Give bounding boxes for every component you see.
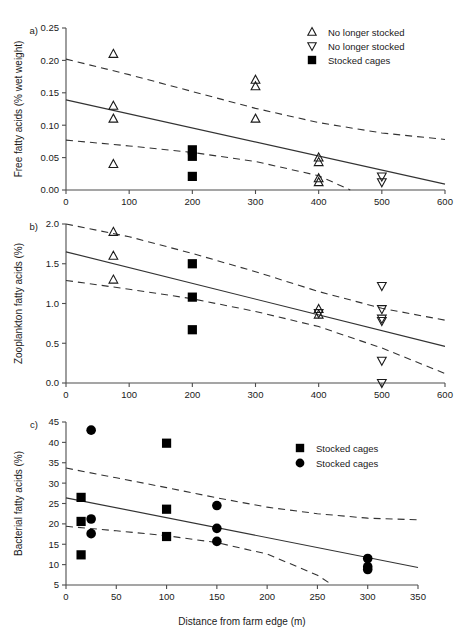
series-square	[76, 439, 171, 560]
data-point-square	[162, 439, 171, 448]
data-point-square	[76, 493, 85, 502]
data-point-triangle-up	[109, 275, 118, 283]
y-tick-label: 0.0	[46, 377, 59, 388]
data-point-circle	[86, 514, 96, 524]
series-triangle-down	[377, 173, 386, 187]
y-tick-label: 2.0	[46, 218, 59, 229]
x-axis-title: Distance from farm edge (m)	[178, 616, 305, 627]
x-tick-label: 200	[184, 389, 200, 400]
data-point-square	[188, 325, 197, 334]
x-tick-label: 100	[121, 196, 137, 205]
data-point-triangle-down	[377, 357, 386, 365]
x-tick-label: 400	[311, 196, 327, 205]
y-tick-label: 0.20	[41, 55, 60, 66]
data-point-circle	[212, 501, 222, 511]
confidence-interval-lower	[66, 140, 350, 190]
legend-label: Stocked cages	[316, 458, 379, 469]
confidence-interval-lower	[66, 280, 445, 373]
y-tick-label: 15	[48, 539, 59, 550]
x-tick-label: 300	[360, 591, 376, 602]
x-tick-label: 300	[248, 196, 264, 205]
chart-panel-c: c)51015202530354045050100150200250300350…	[0, 400, 470, 640]
y-axis-title: Free fatty acids (% wet weight)	[13, 41, 24, 178]
x-tick-label: 250	[309, 591, 325, 602]
data-point-triangle-up	[109, 114, 118, 122]
data-point-circle	[212, 537, 222, 547]
x-tick-label: 200	[184, 196, 200, 205]
data-point-square	[188, 259, 197, 268]
x-tick-label: 500	[374, 389, 390, 400]
y-tick-label: 5	[54, 579, 59, 590]
data-point-triangle-down	[377, 306, 386, 314]
x-tick-label: 500	[374, 196, 390, 205]
legend: No longer stockedNo longer stockedStocke…	[308, 27, 405, 66]
x-tick-label: 600	[437, 389, 453, 400]
series-triangle-down	[314, 283, 386, 388]
regression-line	[66, 252, 445, 347]
x-tick-label: 100	[121, 389, 137, 400]
y-tick-label: 25	[48, 498, 59, 509]
data-point-triangle-down	[377, 283, 386, 291]
legend-triangle-down-icon	[308, 43, 316, 51]
x-tick-label: 100	[159, 591, 175, 602]
chart-panel-a: a)0.000.050.100.150.200.2501002003004005…	[0, 0, 470, 205]
y-tick-label: 30	[48, 478, 59, 489]
x-tick-label: 300	[248, 389, 264, 400]
y-tick-label: 0.05	[41, 152, 60, 163]
confidence-interval-upper	[66, 468, 418, 520]
data-point-triangle-up	[251, 114, 260, 122]
x-tick-label: 400	[311, 389, 327, 400]
legend-square-icon	[296, 444, 304, 452]
data-point-circle	[363, 565, 373, 575]
data-point-square	[162, 532, 171, 541]
y-axis-title: Zooplankton fatty acids (%)	[13, 243, 24, 364]
plot-area-a: a)0.000.050.100.150.200.2501002003004005…	[0, 0, 470, 205]
confidence-interval-upper	[66, 224, 445, 320]
series-square	[188, 145, 197, 181]
legend-circle-icon	[296, 459, 305, 468]
regression-line	[66, 100, 445, 184]
series-square	[188, 259, 197, 334]
data-point-square	[188, 152, 197, 161]
x-tick-label: 0	[63, 389, 68, 400]
y-tick-label: 1.5	[46, 258, 59, 269]
data-point-square	[188, 293, 197, 302]
y-tick-label: 0.15	[41, 87, 60, 98]
figure-panel-group: a)0.000.050.100.150.200.2501002003004005…	[0, 0, 470, 640]
confidence-interval-upper	[66, 59, 445, 139]
data-point-square	[162, 505, 171, 514]
data-point-triangle-down	[377, 173, 386, 181]
legend-label: No longer stocked	[328, 27, 405, 38]
y-tick-label: 0.5	[46, 338, 59, 349]
data-point-square	[188, 172, 197, 181]
y-tick-label: 40	[48, 437, 59, 448]
data-point-triangle-up	[109, 49, 118, 57]
series-triangle-up	[109, 227, 323, 318]
data-point-square	[76, 517, 85, 526]
x-tick-label: 150	[209, 591, 225, 602]
plot-area-b: b)0.00.51.01.52.00100200300400500600Zoop…	[0, 205, 470, 400]
y-tick-label: 20	[48, 518, 59, 529]
legend-label: Stocked cages	[328, 55, 391, 66]
data-point-square	[76, 550, 85, 559]
data-point-triangle-up	[109, 159, 118, 167]
y-tick-label: 0.25	[41, 22, 60, 33]
legend-triangle-up-icon	[308, 28, 316, 36]
plot-area-c: c)51015202530354045050100150200250300350…	[0, 400, 470, 640]
panel-label: a)	[30, 25, 38, 36]
y-tick-label: 1.0	[46, 298, 59, 309]
data-point-triangle-up	[109, 251, 118, 259]
series-triangle-up	[109, 49, 323, 185]
panel-label: b)	[30, 221, 38, 232]
x-tick-label: 0	[63, 196, 68, 205]
data-point-triangle-down	[377, 318, 386, 326]
y-tick-label: 0.00	[41, 184, 60, 195]
y-axis-title: Bacterial fatty acids (%)	[13, 451, 24, 556]
legend-label: No longer stocked	[328, 41, 405, 52]
data-point-circle	[86, 529, 96, 539]
chart-panel-b: b)0.00.51.01.52.00100200300400500600Zoop…	[0, 205, 470, 400]
legend-label: Stocked cages	[316, 443, 379, 454]
x-tick-label: 0	[63, 591, 68, 602]
x-tick-label: 200	[259, 591, 275, 602]
x-tick-label: 50	[111, 591, 122, 602]
